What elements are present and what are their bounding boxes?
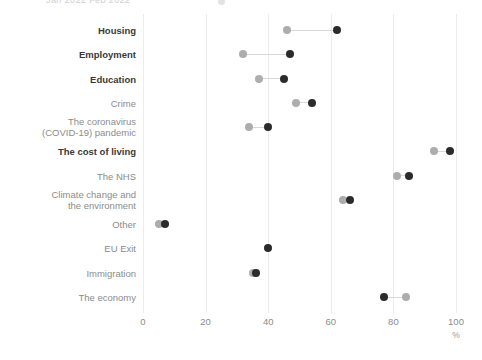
connector-line xyxy=(243,54,290,55)
x-axis-tick: 0 xyxy=(140,316,145,327)
data-point-dark[interactable] xyxy=(405,172,413,180)
data-point-dark[interactable] xyxy=(252,269,260,277)
y-axis-label: Education xyxy=(0,73,136,84)
y-axis-label: Housing xyxy=(0,25,136,36)
y-axis-label-line: Housing xyxy=(0,25,136,36)
data-point-light[interactable] xyxy=(239,50,247,58)
gridline-40 xyxy=(268,14,269,313)
dumbbell-chart: Jan 2022 Feb 2022 HousingEmploymentEduca… xyxy=(0,0,482,360)
y-axis-label: The cost of living xyxy=(0,146,136,157)
data-point-light[interactable] xyxy=(245,123,253,131)
y-axis-label-line: The NHS xyxy=(0,170,136,181)
y-axis-label: Climate change andthe environment xyxy=(0,189,136,211)
gridline-100 xyxy=(456,14,457,313)
y-axis-label-line: Education xyxy=(0,73,136,84)
y-axis-label-line: the environment xyxy=(0,200,136,211)
data-point-dark[interactable] xyxy=(346,196,354,204)
data-point-light[interactable] xyxy=(255,75,263,83)
y-axis-label: The economy xyxy=(0,292,136,303)
data-point-light[interactable] xyxy=(430,147,438,155)
x-axis-tick: 40 xyxy=(263,316,274,327)
x-axis-tick: 80 xyxy=(388,316,399,327)
gridline-0 xyxy=(143,14,144,313)
legend-label: Jan 2022 Feb 2022 xyxy=(46,0,130,5)
y-axis-label-line: Other xyxy=(0,219,136,230)
data-point-dark[interactable] xyxy=(264,123,272,131)
x-axis-tick: 100 xyxy=(448,316,464,327)
data-point-dark[interactable] xyxy=(446,147,454,155)
gridline-20 xyxy=(206,14,207,313)
y-axis-label-line: (COVID-19) pandemic xyxy=(0,127,136,138)
x-axis-tick: 20 xyxy=(200,316,211,327)
y-axis-label: Immigration xyxy=(0,267,136,278)
y-axis-label-line: EU Exit xyxy=(0,243,136,254)
y-axis-label-line: The cost of living xyxy=(0,146,136,157)
connector-line xyxy=(287,30,337,31)
data-point-dark[interactable] xyxy=(286,50,294,58)
data-point-dark[interactable] xyxy=(264,244,272,252)
y-axis-label-line: The coronavirus xyxy=(0,116,136,127)
y-axis-label-line: Employment xyxy=(0,49,136,60)
y-axis-label: The NHS xyxy=(0,170,136,181)
data-point-dark[interactable] xyxy=(380,293,388,301)
y-axis-label-line: Climate change and xyxy=(0,189,136,200)
data-point-light[interactable] xyxy=(292,99,300,107)
x-axis-unit-label: % xyxy=(452,330,460,340)
y-axis-label: EU Exit xyxy=(0,243,136,254)
y-axis-label: Crime xyxy=(0,97,136,108)
y-axis-label-line: The economy xyxy=(0,292,136,303)
gridline-80 xyxy=(393,14,394,313)
data-point-dark[interactable] xyxy=(308,99,316,107)
y-axis-label-line: Immigration xyxy=(0,267,136,278)
y-axis-labels: HousingEmploymentEducationCrimeThe coron… xyxy=(0,14,136,313)
x-axis-tick: 60 xyxy=(326,316,337,327)
y-axis-label: Employment xyxy=(0,49,136,60)
y-axis-label-line: Crime xyxy=(0,97,136,108)
data-point-light[interactable] xyxy=(393,172,401,180)
legend-cropped-strip: Jan 2022 Feb 2022 xyxy=(0,0,482,9)
legend-marker-icon xyxy=(218,0,225,5)
data-point-dark[interactable] xyxy=(333,26,341,34)
data-point-light[interactable] xyxy=(402,293,410,301)
data-point-light[interactable] xyxy=(283,26,291,34)
data-point-dark[interactable] xyxy=(280,75,288,83)
data-point-dark[interactable] xyxy=(161,220,169,228)
gridline-60 xyxy=(331,14,332,313)
plot-area xyxy=(143,14,456,313)
x-axis: 020406080100% xyxy=(143,316,456,346)
y-axis-label: Other xyxy=(0,219,136,230)
y-axis-label: The coronavirus(COVID-19) pandemic xyxy=(0,116,136,138)
